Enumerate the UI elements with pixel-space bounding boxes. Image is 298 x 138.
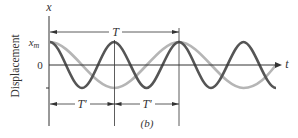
y-axis-var-label: x xyxy=(45,0,52,14)
y-tick-max-label: xm xyxy=(28,36,40,50)
y-tick-zero-label: 0 xyxy=(37,59,43,71)
period-T-prime-label-1: T' xyxy=(77,97,87,111)
arrowhead-left-icon xyxy=(50,30,57,34)
period-T-prime-label-2: T' xyxy=(142,97,152,111)
displacement-figure: T T' T' x t xm 0 Displacement (b) xyxy=(0,0,298,138)
x-axis-var-label: t xyxy=(285,57,289,71)
figure-caption: (b) xyxy=(141,117,154,130)
arrowhead-right-icon xyxy=(172,30,179,34)
x-axis-arrow-icon xyxy=(275,62,282,68)
y-axis-title: Displacement xyxy=(9,34,22,98)
